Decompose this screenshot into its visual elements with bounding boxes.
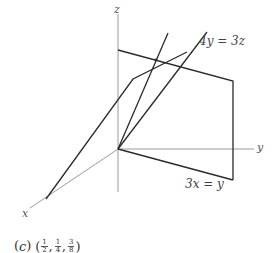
- figure-caption: (c) (12,14,38): [14, 238, 80, 253]
- caption-point-open: (: [35, 239, 40, 253]
- caption-part-letter: c: [19, 239, 26, 253]
- fraction-z-den: 8: [68, 247, 74, 253]
- x-axis: [30, 149, 118, 208]
- fraction-x-den: 2: [41, 247, 47, 253]
- y-axis-label: y: [257, 142, 263, 153]
- diagram-figure: z y x 4y = 3z 3x = y (c) (12,14,38): [0, 0, 277, 253]
- construction-line-3: [118, 33, 168, 149]
- x-axis-label: x: [22, 208, 28, 219]
- fraction-x: 12: [41, 239, 47, 253]
- fraction-z: 38: [68, 239, 74, 253]
- intersection-point: [155, 59, 158, 62]
- fraction-y-den: 4: [55, 247, 61, 253]
- construction-line-2: [118, 32, 207, 149]
- plane-4y-3z-label: 4y = 3z: [199, 35, 245, 47]
- fraction-y: 14: [55, 239, 61, 253]
- construction-line-1: [46, 52, 187, 199]
- plane-3x-y-label: 3x = y: [185, 178, 224, 190]
- z-axis-label: z: [114, 4, 120, 15]
- caption-part: (c): [14, 238, 31, 253]
- caption-point-close: ): [75, 239, 80, 253]
- plane-4y-3z-edge: [118, 50, 233, 180]
- plane-3x-y-edge: [118, 149, 233, 180]
